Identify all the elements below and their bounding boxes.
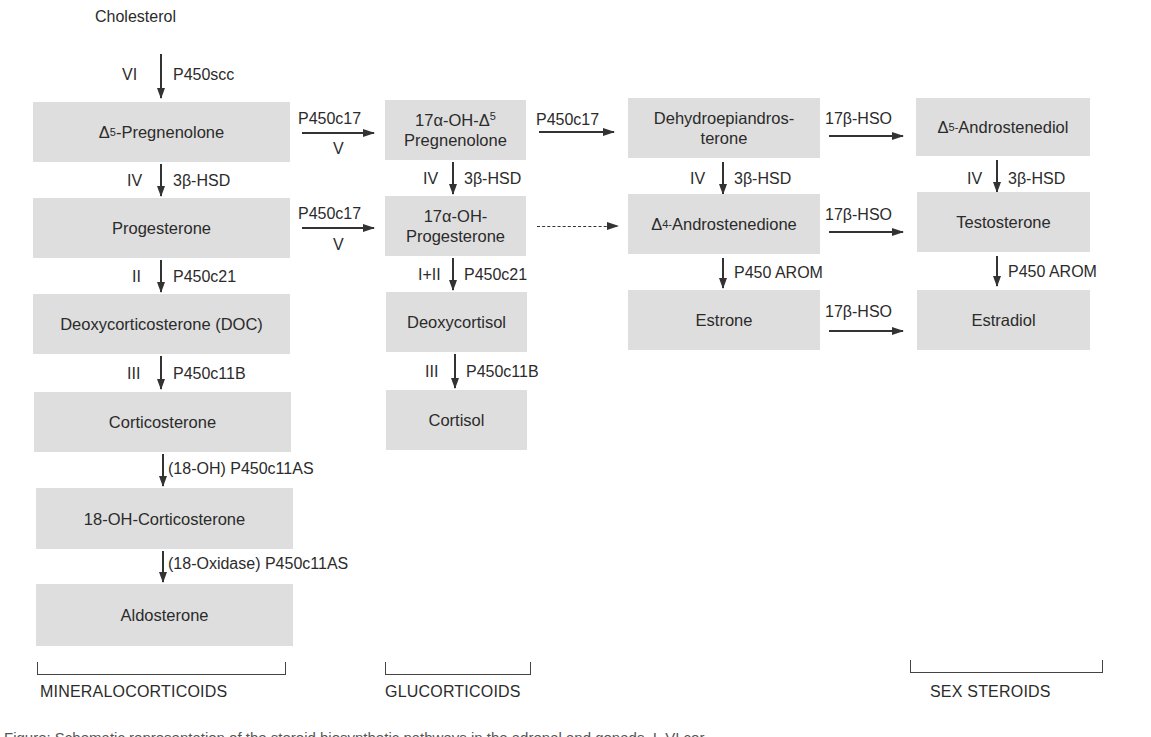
delta-symbol: Δ (99, 122, 110, 142)
compound-name-line1: Dehydroepiandros- (654, 108, 794, 128)
arrow-right-icon (829, 135, 903, 137)
step-roman: V (333, 140, 344, 158)
enzyme-label: P450 AROM (734, 264, 823, 282)
enzyme-label: P450c21 (464, 266, 527, 284)
enzyme-label: (18-Oxidase) P450c11AS (168, 555, 348, 573)
step-roman-vi: VI (122, 66, 137, 84)
compound-18oh-corticosterone: 18-OH-Corticosterone (36, 488, 293, 549)
bracket-sex-steroids (910, 660, 1103, 673)
step-roman: IV (423, 170, 438, 188)
arrow-down-icon (160, 54, 162, 98)
dashed-arrow-right-icon (537, 226, 617, 227)
step-roman: I+II (418, 266, 441, 284)
compound-name-line2: terone (701, 128, 748, 148)
group-label-glucocorticoids: GLUCORTICOIDS (385, 683, 521, 701)
compound-progesterone: Progesterone (33, 198, 290, 258)
step-roman: II (132, 268, 141, 286)
compound-testosterone: Testosterone (917, 192, 1090, 252)
compound-name-line1: 17α-OH- (424, 206, 488, 226)
compound-name-line2: Pregnenolone (404, 130, 507, 150)
compound-deoxycortisol: Deoxycortisol (386, 292, 527, 352)
compound-estrone: Estrone (628, 290, 820, 350)
enzyme-label: 3β-HSD (734, 170, 791, 188)
compound-doc: Deoxycorticosterone (DOC) (33, 294, 290, 354)
compound-dhea: Dehydroepiandros- terone (628, 98, 820, 158)
compound-cortisol: Cortisol (386, 390, 527, 450)
arrow-down-icon (162, 551, 164, 582)
enzyme-label: (18-OH) P450c11AS (168, 460, 314, 478)
arrow-down-icon (996, 256, 998, 286)
enzyme-label: 3β-HSD (1008, 170, 1065, 188)
step-roman: V (333, 236, 344, 254)
compound-17oh-pregnenolone: 17α-OH-Δ5 Pregnenolone (385, 100, 526, 160)
arrow-down-icon (452, 258, 454, 290)
enzyme-label: P450c11B (173, 365, 246, 383)
compound-androstenediol: Δ5-Androstenediol (916, 98, 1090, 156)
compound-name: -Pregnenolone (116, 122, 224, 142)
arrow-down-icon (722, 162, 724, 194)
arrow-right-icon (829, 330, 903, 332)
arrow-down-icon (162, 454, 164, 486)
enzyme-label: 17β-HSO (825, 303, 892, 321)
enzyme-label: P450c17 (298, 110, 361, 128)
compound-androstenedione: Δ4-Androstenedione (628, 194, 820, 254)
compound-pregnenolone: Δ5-Pregnenolone (33, 102, 290, 162)
enzyme-label: P450c17 (536, 111, 599, 129)
figure-caption: Figure: Schematic representation of the … (0, 729, 1151, 737)
step-roman: IV (967, 170, 982, 188)
step-roman: IV (127, 172, 142, 190)
enzyme-label: 17β-HSO (825, 110, 892, 128)
enzyme-label: P450 AROM (1008, 263, 1097, 281)
arrow-right-icon (302, 132, 374, 134)
enzyme-label: 3β-HSD (173, 172, 230, 190)
step-roman: III (127, 365, 140, 383)
compound-corticosterone: Corticosterone (34, 392, 291, 452)
arrow-down-icon (160, 164, 162, 196)
arrow-right-icon (539, 131, 614, 133)
enzyme-p450scc: P450scc (173, 66, 234, 84)
enzyme-label: 3β-HSD (464, 170, 521, 188)
arrow-down-icon (996, 160, 998, 192)
arrow-down-icon (160, 260, 162, 292)
enzyme-label: P450c21 (173, 268, 236, 286)
cholesterol-label: Cholesterol (95, 8, 176, 26)
arrow-down-icon (722, 258, 724, 288)
arrow-right-icon (829, 231, 903, 233)
compound-name-line2: Progesterone (406, 226, 505, 246)
group-label-mineralocorticoids: MINERALOCORTICOIDS (40, 683, 227, 701)
group-label-sex-steroids: SEX STEROIDS (930, 683, 1051, 701)
step-roman: IV (690, 170, 705, 188)
compound-17oh-progesterone: 17α-OH- Progesterone (385, 196, 526, 256)
arrow-right-icon (302, 227, 374, 229)
bracket-glucocorticoids (385, 662, 531, 675)
bracket-mineralocorticoids (37, 662, 286, 675)
compound-name-line1: 17α-OH-Δ5 (415, 110, 496, 130)
step-roman: III (425, 363, 438, 381)
enzyme-label: 17β-HSO (825, 206, 892, 224)
compound-estradiol: Estradiol (917, 290, 1090, 350)
compound-aldosterone: Aldosterone (36, 584, 293, 646)
arrow-down-icon (452, 162, 454, 194)
arrow-down-icon (454, 354, 456, 388)
enzyme-label: P450c17 (298, 205, 361, 223)
arrow-down-icon (160, 356, 162, 389)
caption-text: Figure: Schematic representation of the … (0, 729, 1151, 737)
enzyme-label: P450c11B (466, 363, 539, 381)
